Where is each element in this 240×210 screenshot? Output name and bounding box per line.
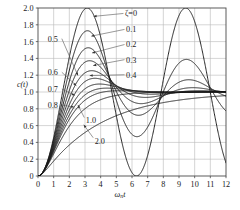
x-tick-label: 7 [146,180,150,189]
leader-line [94,13,124,16]
series-label: 0.7 [48,85,58,94]
y-tick-label: 1.4 [23,54,33,63]
figure-container: 012345678910111200.20.40.60.81.01.21.41.… [0,0,240,210]
x-tick-label: 12 [222,180,230,189]
x-tick-label: 10 [191,180,199,189]
x-tick-label: 3 [83,180,87,189]
series-label: 0.4 [126,71,136,80]
leader-line [92,45,124,53]
series-label: 2.0 [95,137,105,146]
y-tick-label: 1.6 [23,38,33,47]
x-tick-label: 9 [177,180,181,189]
y-tick-label: 2.0 [23,4,33,13]
y-tick-label: 1.8 [23,21,33,30]
leader-arrowhead [93,64,96,66]
y-tick-label: 0.2 [23,155,33,164]
x-tick-label: 1 [52,180,56,189]
x-tick-label: 11 [206,180,214,189]
y-tick-label: 0.4 [23,138,33,147]
x-tick-label: 2 [67,180,71,189]
step-response-chart: 012345678910111200.20.40.60.81.01.21.41.… [0,0,240,210]
y-tick-label: 0.8 [23,105,33,114]
y-tick-labels: 00.20.40.60.81.01.21.41.61.82.0 [23,4,33,181]
series-label: 0.2 [126,40,136,49]
series-label: 0.6 [48,68,58,77]
x-tick-label: 8 [161,180,165,189]
y-tick-label: 1.0 [23,88,33,97]
x-tick-label: 6 [130,180,134,189]
series-label: ζ=0 [125,9,137,18]
series-label: 0.3 [126,56,136,65]
series-label: 0.1 [126,25,136,34]
leader-line [91,29,124,36]
leader-line [93,60,124,66]
x-tick-labels: 0123456789101112 [36,180,230,189]
series-label: 1.0 [86,116,96,125]
y-tick-label: 0.6 [23,122,33,131]
series-label: 0.5 [48,35,58,44]
y-tick-label: 0 [29,172,33,181]
y-tick-label: 1.2 [23,71,33,80]
leader-arrowhead [90,74,93,77]
x-axis-label: ωnt [0,190,240,199]
x-axis-label-t: t [123,190,125,199]
y-axis-label: c(t) [2,80,28,89]
x-tick-label: 4 [99,180,103,189]
series-label: 0.8 [48,101,58,110]
x-tick-label: 5 [114,180,118,189]
x-tick-label: 0 [36,180,40,189]
